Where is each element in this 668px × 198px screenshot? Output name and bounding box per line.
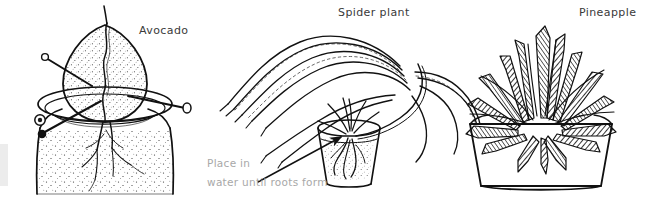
- annotation-caption-line-2: water until roots form: [207, 176, 328, 188]
- plant-propagation-figure: Avocado Spider plant Pineapple Place in …: [0, 0, 668, 198]
- illustration-canvas: [0, 0, 668, 198]
- panel-label-avocado: Avocado: [139, 24, 188, 37]
- annotation-caption-line-1: Place in: [207, 157, 250, 169]
- pineapple-illustration: [466, 26, 616, 190]
- panel-label-spider-plant: Spider plant: [338, 6, 410, 19]
- spider-plant-illustration: [220, 36, 482, 187]
- panel-label-pineapple: Pineapple: [579, 6, 636, 19]
